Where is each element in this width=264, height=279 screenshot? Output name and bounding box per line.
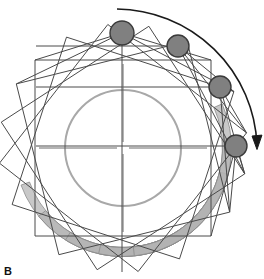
marker-3 — [209, 76, 231, 98]
rotation-arrowhead — [252, 135, 262, 149]
connector-line-1-3 — [16, 33, 122, 84]
rotated-frames-layer — [0, 24, 247, 271]
curved-bands-layer — [21, 104, 231, 257]
frame-3 — [0, 24, 247, 271]
marker-1 — [110, 21, 134, 45]
marker-4 — [225, 135, 247, 157]
figure-panel: B — [0, 0, 264, 279]
panel-label: B — [4, 266, 12, 277]
rotation-diagram-svg — [0, 0, 264, 279]
frame-4 — [1, 26, 244, 269]
crosshair-layer — [39, 64, 207, 232]
marker-2 — [167, 35, 189, 57]
band-5 — [133, 104, 231, 256]
